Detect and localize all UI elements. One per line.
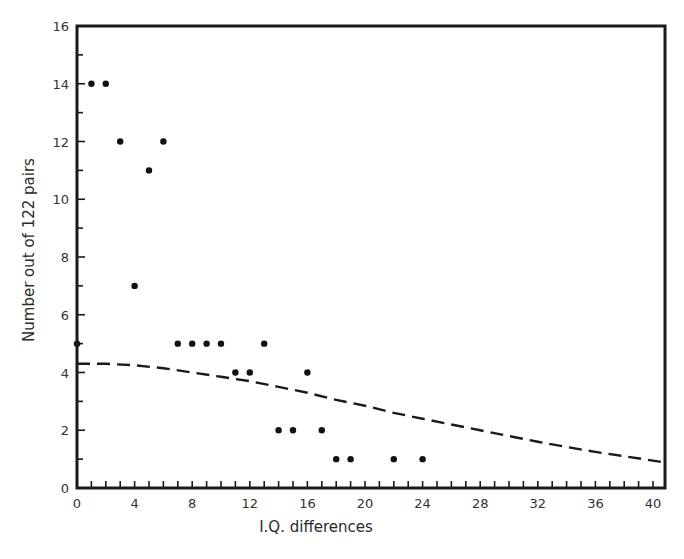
x-tick-label: 36	[587, 496, 604, 511]
x-tick-label: 24	[414, 496, 431, 511]
data-point	[117, 138, 123, 144]
data-point	[391, 456, 397, 462]
data-point	[261, 340, 267, 346]
data-point	[103, 81, 109, 87]
data-point	[232, 369, 238, 375]
data-point	[333, 456, 339, 462]
x-axis: 0481216202428323640	[73, 481, 661, 511]
data-point	[175, 340, 181, 346]
x-tick-label: 32	[530, 496, 547, 511]
data-point	[319, 427, 325, 433]
data-point	[146, 167, 152, 173]
x-tick-label: 20	[357, 496, 374, 511]
data-points	[74, 81, 426, 463]
data-point	[218, 340, 224, 346]
x-tick-label: 0	[73, 496, 81, 511]
data-point	[203, 340, 209, 346]
data-point	[275, 427, 281, 433]
data-point	[419, 456, 425, 462]
data-point	[131, 283, 137, 289]
scatter-chart: 0481216202428323640 0246810121416 I.Q. d…	[0, 0, 684, 559]
y-axis-title: Number out of 122 pairs	[20, 158, 38, 342]
y-tick-label: 12	[52, 135, 69, 150]
plot-frame	[77, 26, 665, 488]
data-point	[160, 138, 166, 144]
x-tick-label: 12	[242, 496, 259, 511]
data-point	[88, 81, 94, 87]
y-tick-label: 8	[61, 250, 69, 265]
y-tick-label: 0	[61, 481, 69, 496]
data-point	[247, 369, 253, 375]
data-point	[290, 427, 296, 433]
x-tick-label: 16	[299, 496, 316, 511]
expected-distribution-curve	[77, 364, 662, 462]
y-tick-label: 4	[61, 366, 69, 381]
y-axis: 0246810121416	[52, 19, 85, 496]
y-tick-label: 2	[61, 423, 69, 438]
x-axis-title: I.Q. differences	[259, 518, 373, 536]
data-point	[189, 340, 195, 346]
y-tick-label: 10	[52, 192, 69, 207]
x-tick-label: 28	[472, 496, 489, 511]
y-tick-label: 6	[61, 308, 69, 323]
data-point	[304, 369, 310, 375]
data-point	[347, 456, 353, 462]
x-tick-label: 40	[645, 496, 662, 511]
x-tick-label: 8	[188, 496, 196, 511]
y-tick-label: 14	[52, 77, 69, 92]
x-tick-label: 4	[130, 496, 138, 511]
y-tick-label: 16	[52, 19, 69, 34]
